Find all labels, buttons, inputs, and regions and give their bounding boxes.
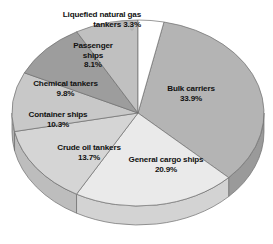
pie-chart-graphic <box>0 0 273 244</box>
pie-top-slices <box>12 20 264 206</box>
pie-chart: Liquefied natural gas tankers 3.3% Passe… <box>0 0 273 244</box>
